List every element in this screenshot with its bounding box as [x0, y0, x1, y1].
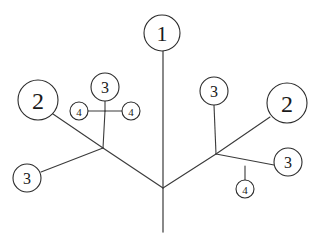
node-circle-n4R[interactable] — [122, 102, 140, 120]
edge-center-to-left-junction — [103, 148, 163, 188]
node-circle-n4B[interactable] — [236, 180, 254, 198]
edge-right-junction-to-tee — [216, 154, 274, 165]
edge-right-junction-to-two — [216, 117, 270, 154]
node-n3BL[interactable]: 3 — [13, 164, 41, 192]
node-n2R[interactable]: 2 — [267, 83, 307, 123]
node-circle-n3T[interactable] — [91, 73, 119, 101]
edges-layer — [41, 51, 274, 232]
edge-right-junction-to-three — [214, 105, 216, 154]
node-n3T[interactable]: 3 — [91, 73, 119, 101]
node-circle-n4L[interactable] — [70, 102, 88, 120]
tree-diagram: 1234433234 — [0, 0, 320, 242]
node-circle-n3BL[interactable] — [13, 164, 41, 192]
node-n2L[interactable]: 2 — [18, 80, 58, 120]
node-n3BR[interactable]: 3 — [274, 148, 302, 176]
node-circle-n2L[interactable] — [18, 80, 58, 120]
node-n1[interactable]: 1 — [144, 15, 180, 51]
edge-left-junction-to-three — [41, 148, 103, 172]
node-n4L[interactable]: 4 — [70, 102, 88, 120]
node-circle-n1[interactable] — [144, 15, 180, 51]
node-n3R[interactable]: 3 — [200, 77, 228, 105]
node-circle-n2R[interactable] — [267, 83, 307, 123]
node-n4R[interactable]: 4 — [122, 102, 140, 120]
node-circle-n3R[interactable] — [200, 77, 228, 105]
node-n4B[interactable]: 4 — [236, 180, 254, 198]
edge-left-junction-to-tee — [103, 111, 105, 148]
node-circle-n3BR[interactable] — [274, 148, 302, 176]
edge-center-to-right-junction — [163, 154, 216, 188]
nodes-layer: 1234433234 — [13, 15, 307, 198]
diagram-canvas: 1234433234 — [0, 0, 320, 242]
